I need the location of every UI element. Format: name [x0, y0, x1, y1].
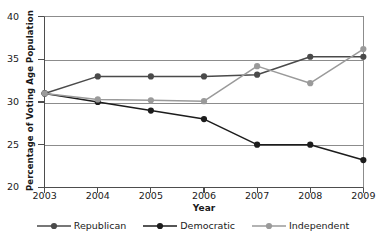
data-point-democratic-2005	[148, 107, 154, 113]
legend-item-democratic[interactable]: Democratic	[143, 221, 235, 231]
data-point-independent-2004	[95, 96, 101, 102]
legend-label-independent: Independent	[289, 221, 349, 231]
data-point-democratic-2008	[307, 142, 313, 148]
data-point-independent-2007	[254, 63, 260, 69]
data-point-independent-2008	[307, 80, 313, 86]
data-point-democratic-2007	[254, 142, 260, 148]
chart-legend: RepublicanDemocraticIndependent	[0, 221, 386, 231]
data-point-republican-2005	[148, 73, 154, 79]
data-point-independent-2005	[148, 97, 154, 103]
data-point-republican-2007	[254, 72, 260, 78]
legend-label-republican: Republican	[74, 221, 126, 231]
legend-marker-icon-democratic	[143, 221, 177, 231]
data-point-republican-2009	[360, 54, 366, 60]
series-republican	[42, 54, 367, 97]
data-point-independent-2006	[201, 98, 207, 104]
data-point-democratic-2006	[201, 116, 207, 122]
legend-label-democratic: Democratic	[180, 221, 235, 231]
legend-marker-icon-republican	[37, 221, 71, 231]
line-chart: Percentage of Voting Age Population 2025…	[0, 0, 386, 242]
data-point-democratic-2009	[360, 157, 366, 163]
legend-item-independent[interactable]: Independent	[252, 221, 349, 231]
legend-marker-icon-independent	[252, 221, 286, 231]
data-point-independent-2009	[360, 46, 366, 52]
series-layer	[0, 0, 386, 242]
data-point-independent-2003	[42, 90, 48, 96]
data-point-republican-2006	[201, 73, 207, 79]
legend-item-republican[interactable]: Republican	[37, 221, 126, 231]
data-point-republican-2008	[307, 54, 313, 60]
data-point-republican-2004	[95, 73, 101, 79]
